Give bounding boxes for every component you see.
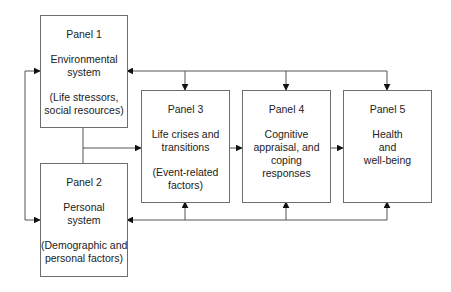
panel-name-line: and — [344, 141, 431, 154]
panel-name-line: Environmental — [41, 53, 127, 66]
panel-name-line: coping — [243, 154, 330, 167]
panel-5-health-well-being: Panel 5 Health and well-being — [343, 90, 432, 203]
panel-name-line: well-being — [344, 154, 431, 167]
panel-name-line: Health — [344, 128, 431, 141]
panel-name-line: transitions — [142, 141, 229, 154]
panel-name-line: Life crises and — [142, 128, 229, 141]
panel-name-line: Cognitive — [243, 128, 330, 141]
panel-name-line: system — [41, 66, 127, 79]
panel-3-life-crises: Panel 3 Life crises and transitions (Eve… — [141, 90, 230, 203]
panel-title: Panel 4 — [243, 103, 330, 116]
panel-name-line: responses — [243, 167, 330, 180]
panel-name-line: appraisal, and — [243, 141, 330, 154]
panel-2-personal-system: Panel 2 Personal system (Demographic and… — [40, 163, 128, 277]
panel-name-line: Personal — [41, 201, 127, 214]
panel-sub-line: (Demographic and — [41, 239, 127, 252]
panel-sub-line: (Life stressors, — [41, 91, 127, 104]
panel-sub-line: personal factors) — [41, 252, 127, 265]
panel-title: Panel 3 — [142, 103, 229, 116]
panel-sub-line: factors) — [142, 179, 229, 192]
panel-name-line: system — [41, 214, 127, 227]
panel-1-environmental-system: Panel 1 Environmental system (Life stres… — [40, 15, 128, 128]
panel-title: Panel 2 — [41, 176, 127, 189]
panel-title: Panel 5 — [344, 103, 431, 116]
panel-sub-line: (Event-related — [142, 166, 229, 179]
panel-title: Panel 1 — [41, 28, 127, 41]
panel-4-cognitive-appraisal: Panel 4 Cognitive appraisal, and coping … — [242, 90, 331, 203]
panel-sub-line: social resources) — [41, 104, 127, 117]
